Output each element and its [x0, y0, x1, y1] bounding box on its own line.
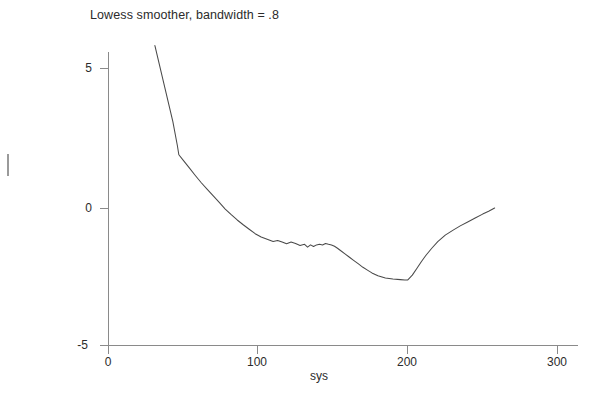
x-tick-label-0: 0: [88, 355, 128, 369]
y-tick-label-minus5: -5: [58, 338, 88, 352]
x-tick-label-100: 100: [237, 355, 277, 369]
y-tick-label-5: 5: [62, 61, 92, 75]
x-axis-label: sys: [310, 369, 328, 383]
plot-canvas: [0, 0, 591, 400]
x-tick-label-200: 200: [387, 355, 427, 369]
y-tick-label-0: 0: [62, 201, 92, 215]
x-tick-label-300: 300: [537, 355, 577, 369]
figure-container: Lowess smoother, bandwidth = .8 5 0 -5 0…: [0, 0, 591, 400]
lowess-curve: [155, 46, 495, 280]
